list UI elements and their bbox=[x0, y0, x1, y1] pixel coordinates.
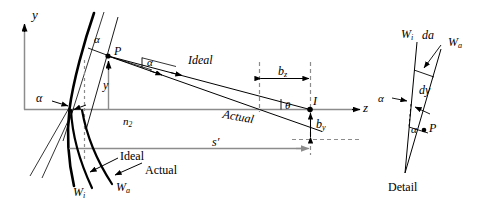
point-P-marker bbox=[105, 53, 110, 58]
detail-wi-symbol: W bbox=[401, 27, 411, 41]
alpha-rays-label: α bbox=[147, 57, 153, 68]
detail-alpha-outer-label: α bbox=[378, 93, 384, 104]
theta-angle-label: θ bbox=[285, 100, 290, 111]
transverse-aberration-label: by bbox=[316, 118, 326, 132]
detail-wa-symbol: W bbox=[448, 35, 458, 49]
longitudinal-aberration-label: bz bbox=[278, 65, 287, 79]
detail-wa-subscript: a bbox=[458, 41, 462, 50]
actual-ray-direction-arrow bbox=[150, 71, 162, 75]
detail-wavefront-ideal-label: Wi bbox=[401, 28, 413, 42]
by-subscript: y bbox=[322, 123, 326, 132]
detail-upper-cross-segment bbox=[414, 70, 434, 77]
wavefront-actual-callout-label: Actual bbox=[145, 164, 177, 176]
wavefront-actual-symbol-label: Wa bbox=[116, 181, 130, 195]
ideal-ray-label: Ideal bbox=[188, 54, 213, 66]
y-axis-label: y bbox=[32, 8, 38, 21]
wavefront-ideal-callout-label: Ideal bbox=[120, 150, 144, 162]
ideal-ray-direction-arrow bbox=[170, 72, 182, 75]
detail-point-P-marker bbox=[422, 128, 427, 133]
optics-ray-aberration-figure: y z P I y n2 α α α θ Ideal Actual bz by … bbox=[0, 0, 484, 210]
rays-group bbox=[108, 56, 322, 132]
bz-subscript: z bbox=[284, 70, 287, 79]
alpha-surface-label: α bbox=[94, 34, 100, 45]
tangent-line-at-P bbox=[86, 17, 118, 130]
point-I-marker bbox=[307, 107, 313, 113]
image-distance-prime: ′ bbox=[217, 135, 220, 149]
image-distance-label: s′ bbox=[212, 136, 219, 148]
detail-wi-subscript: i bbox=[411, 33, 413, 42]
detail-wavefront-actual-label: Wa bbox=[448, 36, 462, 50]
medium-index-subscript: 2 bbox=[129, 120, 133, 129]
detail-da-label: da bbox=[422, 29, 434, 41]
medium-index-label: n2 bbox=[123, 116, 132, 129]
wa-subscript: a bbox=[126, 186, 130, 195]
actual-ray-line bbox=[108, 56, 322, 132]
detail-caption: Detail bbox=[388, 181, 417, 193]
detail-alpha-inner-label: α bbox=[411, 124, 417, 135]
wa-symbol: W bbox=[116, 180, 126, 194]
alpha-vertex-leader-arrow bbox=[52, 101, 68, 106]
vertex-construction-line-a bbox=[30, 108, 69, 176]
height-y-label: y bbox=[103, 79, 108, 91]
detail-alpha-leader-arrow bbox=[392, 98, 407, 101]
wavefront-ideal-symbol-label: Wi bbox=[73, 186, 85, 200]
alpha-vertex-label: α bbox=[36, 92, 42, 104]
detail-inset-group bbox=[392, 42, 441, 173]
detail-point-P-label: P bbox=[429, 122, 436, 134]
point-I-label: I bbox=[313, 95, 317, 107]
wi-subscript: i bbox=[83, 191, 85, 200]
point-P-label: P bbox=[114, 45, 121, 57]
wi-symbol: W bbox=[73, 185, 83, 199]
detail-dy-label: dy bbox=[419, 84, 430, 96]
z-axis-label: z bbox=[363, 101, 368, 114]
wavefront-actual-leader-arrow bbox=[115, 163, 142, 175]
